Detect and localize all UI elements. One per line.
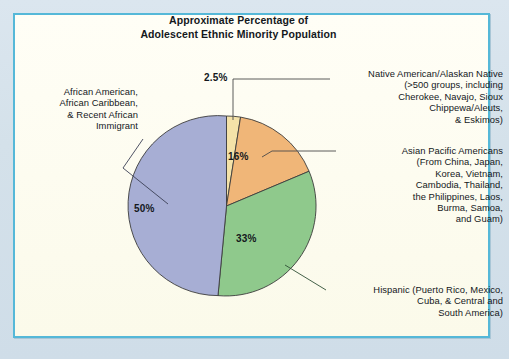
leader-line-native-american (233, 79, 330, 120)
pie-category-label-hispanic: Hispanic (Puerto Rico, Mexico, Cuba, & C… (327, 284, 503, 318)
figure-root: Approximate Percentage of Adolescent Eth… (0, 0, 509, 359)
leader-line-hispanic (285, 265, 326, 290)
pie-category-label-asian-pacific: Asian Pacific Americans (From China, Jap… (337, 145, 503, 225)
pie-value-label-hispanic: 33% (236, 233, 257, 244)
pie-value-label-african-american: 50% (134, 203, 155, 214)
pie-category-label-native-american: Native American/Alaskan Native (>500 gro… (331, 68, 503, 125)
pie-value-label-asian-pacific: 16% (228, 151, 249, 162)
pie-category-label-african-american: African American, African Caribbean, & R… (20, 86, 138, 132)
pie-value-label-native-american: 2.5% (204, 72, 228, 83)
